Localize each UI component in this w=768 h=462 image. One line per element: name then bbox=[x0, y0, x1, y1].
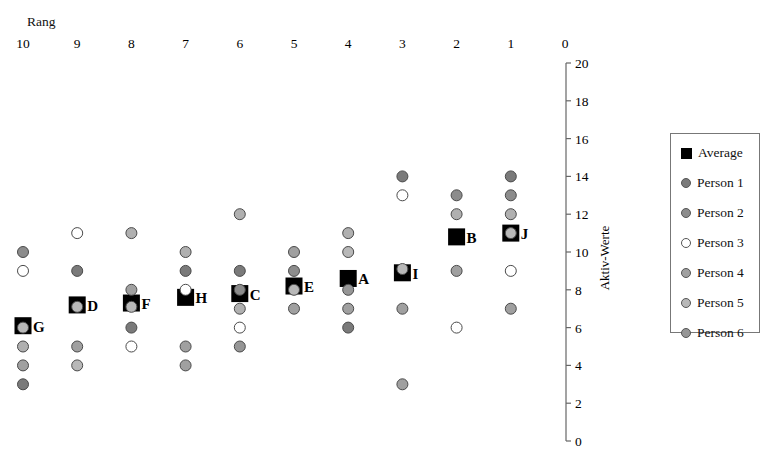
person-dot bbox=[72, 265, 83, 276]
person-dot bbox=[397, 379, 408, 390]
item-label: C bbox=[250, 287, 261, 303]
item-c: C bbox=[231, 209, 260, 352]
legend-label: Person 6 bbox=[697, 325, 744, 341]
legend-label: Person 1 bbox=[697, 175, 744, 191]
person-dot bbox=[126, 228, 137, 239]
y-tick-label: 0 bbox=[575, 434, 582, 449]
person-dot bbox=[289, 284, 300, 295]
legend-item-person-1: Person 1 bbox=[681, 168, 759, 198]
item-b: B bbox=[448, 190, 477, 333]
person-dot bbox=[451, 190, 462, 201]
y-tick-label: 18 bbox=[575, 94, 589, 109]
item-label: H bbox=[196, 290, 208, 306]
y-tick-label: 4 bbox=[575, 358, 582, 373]
person-dot bbox=[234, 265, 245, 276]
person-dot bbox=[343, 247, 354, 258]
person-dot bbox=[289, 303, 300, 314]
circle-marker-icon bbox=[681, 238, 691, 248]
circle-marker-icon bbox=[681, 178, 691, 188]
item-f: F bbox=[123, 228, 151, 352]
item-label: D bbox=[87, 298, 98, 314]
person-dot bbox=[234, 341, 245, 352]
person-dot bbox=[234, 209, 245, 220]
item-i: I bbox=[394, 171, 419, 390]
x-tick-label: 3 bbox=[399, 36, 406, 51]
x-tick-label: 7 bbox=[182, 36, 189, 51]
person-dot bbox=[126, 301, 137, 312]
y-tick-label: 2 bbox=[575, 396, 582, 411]
item-h: H bbox=[177, 247, 208, 371]
person-dot bbox=[505, 228, 516, 239]
legend-label: Person 2 bbox=[697, 205, 744, 221]
x-tick-label: 1 bbox=[507, 36, 514, 51]
person-dot bbox=[126, 341, 137, 352]
average-marker bbox=[448, 228, 465, 245]
y-tick-label: 6 bbox=[575, 321, 582, 336]
person-dot bbox=[505, 303, 516, 314]
person-dot bbox=[18, 379, 29, 390]
person-dot bbox=[234, 303, 245, 314]
person-dot bbox=[180, 341, 191, 352]
x-axis-tick-labels: 109876543210 bbox=[16, 36, 568, 51]
item-label: E bbox=[304, 279, 314, 295]
y-tick-label: 14 bbox=[575, 169, 589, 184]
person-dot bbox=[126, 284, 137, 295]
item-label: I bbox=[412, 266, 418, 282]
person-dot bbox=[397, 303, 408, 314]
circle-marker-icon bbox=[681, 208, 691, 218]
y-axis-title: Aktiv-Werte bbox=[597, 225, 612, 290]
x-tick-label: 0 bbox=[562, 36, 569, 51]
person-dot bbox=[180, 265, 191, 276]
person-dot bbox=[18, 247, 29, 258]
person-dot bbox=[289, 247, 300, 258]
item-j: J bbox=[502, 171, 529, 314]
person-dot bbox=[72, 228, 83, 239]
item-a: A bbox=[340, 228, 370, 334]
item-label: J bbox=[521, 226, 529, 242]
person-dot bbox=[18, 360, 29, 371]
person-dot bbox=[505, 171, 516, 182]
person-dot bbox=[180, 360, 191, 371]
y-tick-label: 16 bbox=[575, 132, 589, 147]
item-label: A bbox=[358, 271, 369, 287]
legend-label: Person 5 bbox=[697, 295, 744, 311]
y-tick-label: 12 bbox=[575, 207, 589, 222]
person-dot bbox=[451, 209, 462, 220]
person-dot bbox=[343, 322, 354, 333]
person-dot bbox=[234, 284, 245, 295]
person-dot bbox=[180, 284, 191, 295]
legend-label: Person 3 bbox=[697, 235, 744, 251]
legend-item-person-5: Person 5 bbox=[681, 288, 759, 318]
item-g: G bbox=[15, 247, 46, 390]
legend-item-average: Average bbox=[681, 138, 759, 168]
item-label: G bbox=[33, 319, 45, 335]
chart-legend: AveragePerson 1Person 2Person 3Person 4P… bbox=[670, 133, 760, 333]
item-e: E bbox=[286, 247, 315, 315]
person-dot bbox=[343, 303, 354, 314]
person-dot bbox=[72, 360, 83, 371]
circle-marker-icon bbox=[681, 298, 691, 308]
y-axis: 02468101214161820 bbox=[566, 56, 589, 449]
legend-item-person-3: Person 3 bbox=[681, 228, 759, 258]
circle-marker-icon bbox=[681, 268, 691, 278]
x-axis-title: Rang bbox=[27, 14, 56, 30]
person-dot bbox=[18, 265, 29, 276]
x-tick-label: 8 bbox=[128, 36, 135, 51]
person-dot bbox=[343, 284, 354, 295]
legend-item-person-2: Person 2 bbox=[681, 198, 759, 228]
y-tick-label: 20 bbox=[575, 56, 589, 71]
legend-label: Average bbox=[698, 145, 743, 161]
x-tick-label: 6 bbox=[236, 36, 243, 51]
person-dot bbox=[397, 171, 408, 182]
item-label: F bbox=[141, 296, 150, 312]
person-dot bbox=[180, 247, 191, 258]
legend-item-person-4: Person 4 bbox=[681, 258, 759, 288]
x-tick-label: 4 bbox=[345, 36, 352, 51]
person-dot bbox=[505, 209, 516, 220]
person-dot bbox=[505, 190, 516, 201]
person-dot bbox=[343, 228, 354, 239]
person-dot bbox=[18, 341, 29, 352]
plot-area: GDFHCEAIBJ bbox=[15, 171, 529, 390]
x-tick-label: 10 bbox=[16, 36, 30, 51]
x-tick-label: 5 bbox=[291, 36, 298, 51]
